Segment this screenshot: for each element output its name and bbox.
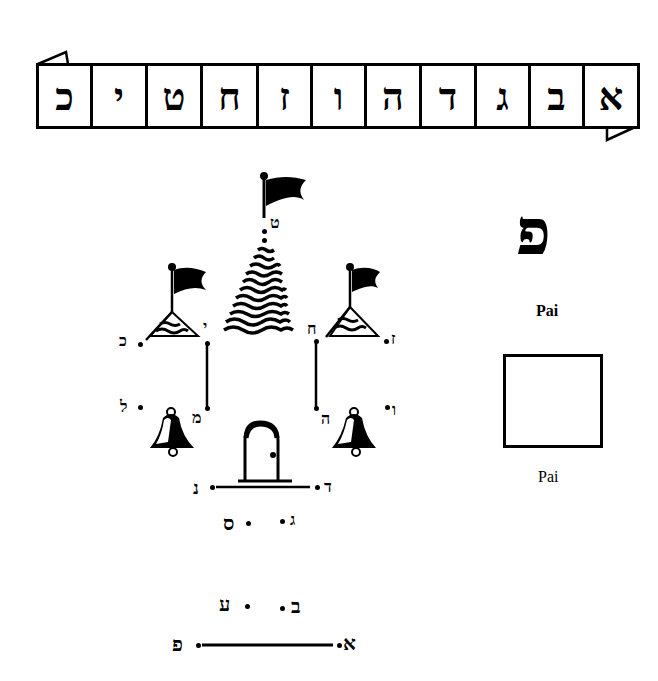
- dot-label-kaf: כ: [119, 333, 127, 349]
- dot: [210, 485, 215, 490]
- dot-label-ayin: ע: [219, 594, 230, 614]
- dot: [196, 643, 201, 648]
- dot-label-nun: נ: [193, 479, 199, 497]
- dot-label-alef: א: [343, 633, 356, 653]
- dot-label-yod: י: [203, 319, 207, 335]
- dot-label-pe: פ: [172, 634, 183, 654]
- bell-icon: [332, 408, 376, 456]
- tower-icon: [224, 249, 293, 334]
- dot-label-tet: ט: [270, 215, 280, 231]
- dot: [315, 485, 320, 490]
- dot: [280, 519, 285, 524]
- dot: [384, 339, 389, 344]
- dot-label-dalet: ד: [324, 479, 332, 495]
- dot: [245, 604, 250, 609]
- dot-label-samech: ס: [223, 513, 234, 533]
- letter-name: Pai: [538, 468, 558, 486]
- right-turret-icon: [326, 263, 380, 337]
- dot-label-chet: ח: [307, 321, 316, 337]
- dot: [385, 405, 390, 410]
- dot: [337, 643, 342, 648]
- dot: [246, 521, 251, 526]
- dot: [138, 405, 143, 410]
- dot-label-vav: ו: [392, 402, 396, 418]
- door-icon: [238, 422, 292, 481]
- drawing-box[interactable]: [503, 354, 603, 448]
- dot-label-lamed: ל: [120, 399, 127, 415]
- dot: [280, 606, 285, 611]
- dot-label-mem: מ: [192, 410, 201, 426]
- dot: [205, 341, 210, 346]
- letter-name-bold: Pai: [536, 302, 558, 320]
- left-turret-icon: [146, 263, 206, 340]
- flag-icon: [260, 172, 306, 218]
- featured-letter: פ: [516, 200, 551, 264]
- dot-label-gimel: ג: [290, 512, 295, 528]
- dot: [262, 238, 267, 243]
- dot: [262, 229, 267, 234]
- dot-label-zayin: ז: [391, 331, 395, 347]
- dot-label-bet: ב: [291, 596, 301, 616]
- dot-label-hey: ה: [321, 411, 330, 427]
- dot: [138, 342, 143, 347]
- castle-drawing: [0, 0, 658, 681]
- bell-icon: [150, 408, 194, 456]
- dot: [205, 406, 210, 411]
- dot: [314, 406, 319, 411]
- dot: [314, 339, 319, 344]
